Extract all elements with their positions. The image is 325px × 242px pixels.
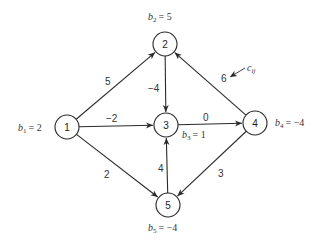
annotation-text: cij bbox=[247, 62, 255, 75]
edge-1-2 bbox=[76, 52, 155, 119]
node-label: 4 bbox=[252, 118, 258, 129]
edge-cost-label: 2 bbox=[104, 169, 110, 180]
edge-cost-label: 3 bbox=[218, 168, 224, 179]
supply-value: = 2 bbox=[29, 122, 42, 133]
node-1: 1 bbox=[55, 115, 79, 139]
node-label: 3 bbox=[163, 120, 169, 131]
supply-value: = 5 bbox=[159, 11, 172, 22]
supply-subscript: 4 bbox=[280, 122, 284, 130]
node-label: 2 bbox=[162, 39, 168, 50]
edge-cost-label: −2 bbox=[106, 113, 118, 124]
supply-label-4: b4= −4 bbox=[275, 117, 304, 130]
edge-cost-label: 6 bbox=[221, 73, 227, 84]
edge-3-4 bbox=[178, 123, 242, 124]
node-5: 5 bbox=[156, 193, 180, 217]
node-3: 3 bbox=[154, 113, 178, 137]
supply-subscript: 3 bbox=[187, 134, 191, 142]
supply-value: = −4 bbox=[286, 117, 305, 128]
supply-value: = 1 bbox=[193, 129, 206, 140]
arrow bbox=[165, 56, 166, 112]
edge-cost-label: 5 bbox=[105, 76, 111, 87]
supply-label-1: b1= 2 bbox=[18, 122, 42, 135]
supply-label-2: b2= 5 bbox=[148, 11, 172, 24]
cost-annotation: cij bbox=[230, 62, 255, 77]
supply-subscript: 5 bbox=[153, 227, 157, 235]
supply-subscript: 2 bbox=[153, 16, 157, 24]
arrow bbox=[166, 138, 167, 193]
arrow bbox=[79, 125, 153, 126]
arrow bbox=[175, 53, 246, 116]
edge-cost-label: −4 bbox=[148, 83, 160, 94]
network-flow-diagram: 12345 5−22−40634b1= 2b2= 5b3= 1b4= −4b5=… bbox=[0, 0, 325, 242]
supply-label-3: b3= 1 bbox=[182, 129, 206, 142]
edge-1-5 bbox=[76, 134, 157, 197]
node-2: 2 bbox=[153, 32, 177, 56]
arrow bbox=[76, 52, 155, 119]
diagram-svg: 12345 5−22−40634b1= 2b2= 5b3= 1b4= −4b5=… bbox=[0, 0, 325, 242]
arrow bbox=[178, 123, 242, 124]
edge-cost-label: 4 bbox=[158, 163, 164, 174]
supply-subscript: 1 bbox=[23, 127, 27, 135]
edge-4-2 bbox=[175, 53, 246, 116]
supply-value: = −4 bbox=[159, 222, 178, 233]
annotation-arrow bbox=[230, 68, 245, 77]
edge-2-3 bbox=[165, 56, 166, 112]
edge-cost-label: 0 bbox=[203, 112, 209, 123]
node-label: 5 bbox=[165, 200, 171, 211]
nodes-layer: 12345 bbox=[55, 32, 267, 217]
edge-5-3 bbox=[166, 138, 167, 193]
node-label: 1 bbox=[64, 122, 70, 133]
node-4: 4 bbox=[243, 111, 267, 135]
supply-label-5: b5= −4 bbox=[148, 222, 177, 235]
arrow bbox=[76, 134, 157, 197]
edge-1-3 bbox=[79, 125, 153, 126]
